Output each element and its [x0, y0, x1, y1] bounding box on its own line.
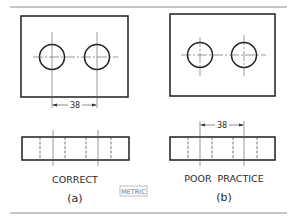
correct-edge-view [22, 130, 129, 166]
poor-practice-sublabel: (b) [216, 191, 232, 204]
correct-front-view [21, 16, 128, 108]
correct-dimension-value: 38 [70, 101, 80, 110]
metric-badge: METRIC [121, 188, 146, 196]
poor-practice-front-view [170, 14, 275, 96]
poor-practice-dimension-value: 38 [217, 121, 227, 130]
correct-caption: CORRECT [52, 174, 98, 185]
correct-sublabel: (a) [67, 192, 82, 205]
poor-practice-caption: POOR PRACTICE [184, 173, 263, 184]
dimensioning-diagram: 38 CORRECT (a) METRIC 38 POOR P [0, 0, 297, 218]
